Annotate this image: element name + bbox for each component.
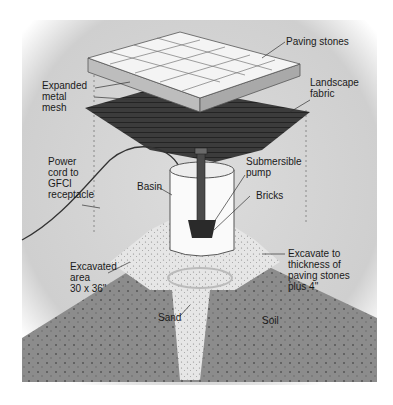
submersible-pump: [197, 152, 205, 222]
fountain-diagram: [0, 0, 393, 405]
label-excavated-area: Excavated area 30 x 36": [70, 261, 117, 294]
label-bricks: Bricks: [256, 190, 283, 201]
label-landscape-fabric: Landscape fabric: [310, 77, 359, 99]
label-soil: Soil: [262, 315, 279, 326]
label-submersible-pump: Submersible pump: [246, 156, 302, 178]
label-power-cord: Power cord to GFCI receptacle: [48, 156, 94, 200]
label-sand: Sand: [158, 312, 181, 323]
label-excavate-depth: Excavate to thickness of paving stones p…: [288, 248, 350, 292]
bricks: [188, 220, 216, 238]
label-basin: Basin: [137, 181, 162, 192]
label-paving-stones: Paving stones: [286, 36, 349, 47]
label-expanded-metal-mesh: Expanded metal mesh: [42, 80, 87, 113]
